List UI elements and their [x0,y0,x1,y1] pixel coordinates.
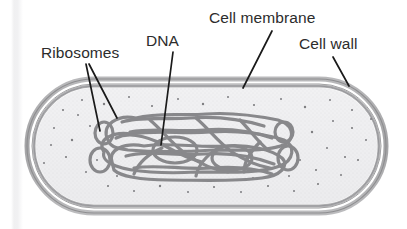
label-cell-membrane: Cell membrane [209,10,315,26]
label-cell-wall: Cell wall [299,36,358,52]
scan-artifact-band [11,0,23,229]
label-ribosomes: Ribosomes [41,45,119,61]
bacterial-cell-figure: Ribosomes DNA Cell membrane Cell wall [0,0,407,229]
label-dna: DNA [146,33,179,49]
